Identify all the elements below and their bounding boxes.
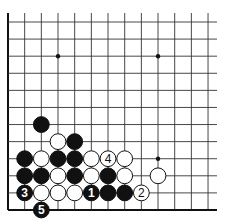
white-stone <box>83 151 99 167</box>
move-number-label: 2 <box>138 186 145 200</box>
black-stone <box>67 168 83 184</box>
black-stone-icon <box>100 185 116 201</box>
white-stone <box>50 134 66 150</box>
black-stone <box>17 151 33 167</box>
black-stone-move-1: 1 <box>83 185 99 201</box>
white-stone <box>67 185 83 201</box>
white-stone-move-4: 4 <box>100 151 116 167</box>
white-stone-icon <box>50 168 66 184</box>
black-stone-icon <box>100 168 116 184</box>
white-stone-icon <box>50 185 66 201</box>
black-stone-icon <box>50 151 66 167</box>
white-stone <box>50 185 66 201</box>
black-stone-icon <box>33 117 49 133</box>
white-stone <box>150 168 166 184</box>
white-stone <box>50 168 66 184</box>
black-stone <box>67 134 83 150</box>
black-stone <box>33 117 49 133</box>
white-stone-icon <box>33 151 49 167</box>
white-stone <box>33 151 49 167</box>
go-board: 43125 <box>0 0 226 222</box>
black-stone-move-3: 3 <box>17 185 33 201</box>
white-stone-icon <box>117 168 133 184</box>
white-stone-icon <box>150 168 166 184</box>
star-point-icon <box>156 157 160 161</box>
black-stone-icon <box>117 185 133 201</box>
white-stone-icon <box>83 168 99 184</box>
white-stone <box>33 185 49 201</box>
black-stone <box>117 185 133 201</box>
black-stone-icon <box>17 151 33 167</box>
white-stone <box>117 168 133 184</box>
black-stone <box>50 151 66 167</box>
star-point-icon <box>56 54 60 58</box>
move-number-label: 1 <box>88 186 95 200</box>
white-stone-icon <box>50 134 66 150</box>
black-stone <box>100 168 116 184</box>
white-stone-move-2: 2 <box>133 185 149 201</box>
move-number-label: 4 <box>105 152 112 166</box>
star-point-icon <box>156 54 160 58</box>
black-stone-icon <box>67 151 83 167</box>
black-stone <box>100 185 116 201</box>
black-stone-icon <box>67 168 83 184</box>
white-stone-icon <box>67 185 83 201</box>
black-stone-icon <box>67 134 83 150</box>
black-stone <box>17 168 33 184</box>
black-stone <box>67 151 83 167</box>
white-stone-icon <box>33 185 49 201</box>
black-stone-icon <box>33 168 49 184</box>
white-stone-icon <box>117 151 133 167</box>
black-stone-icon <box>17 168 33 184</box>
white-stone <box>83 168 99 184</box>
move-number-label: 3 <box>21 186 28 200</box>
black-stone <box>33 168 49 184</box>
black-stone-move-5: 5 <box>33 202 49 218</box>
white-stone-icon <box>83 151 99 167</box>
white-stone <box>117 151 133 167</box>
move-number-label: 5 <box>38 203 45 217</box>
